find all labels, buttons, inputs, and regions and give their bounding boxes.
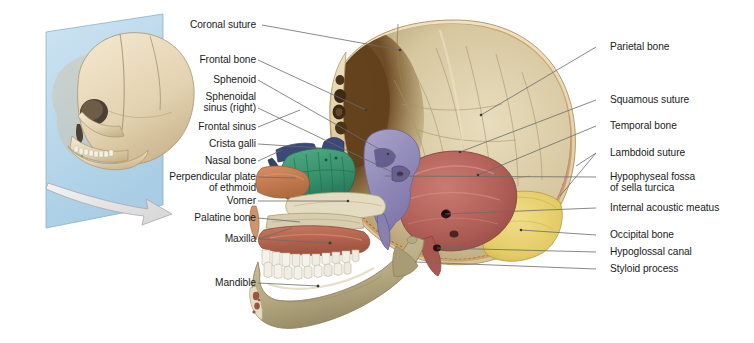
- label-text: Hypoglossal canal: [610, 246, 692, 257]
- anatomy-figure: Coronal sutureFrontal boneSphenoidSpheno…: [0, 0, 754, 343]
- label-text-line2: of sella turcica: [610, 182, 695, 193]
- label-text: Sphenoidal: [206, 91, 256, 102]
- label-text: Styloid process: [610, 263, 678, 274]
- label-text: Coronal suture: [190, 19, 256, 30]
- label-text: Internal acoustic meatus: [610, 202, 719, 213]
- label-mandible: Mandible: [204, 277, 256, 288]
- label-text: Mandible: [215, 277, 256, 288]
- sagittal-skull: [250, 16, 585, 328]
- label-sphenoid: Sphenoid: [205, 74, 256, 85]
- label-parietal-bone: Parietal bone: [610, 41, 669, 52]
- label-sphenoidal-sinus-right: Sphenoidalsinus (right): [183, 91, 256, 114]
- label-text: Frontal sinus: [198, 121, 256, 132]
- label-vomer: Vomer: [217, 195, 256, 206]
- label-text: Perpendicular plate: [169, 171, 256, 182]
- orientation-inset: [46, 14, 194, 228]
- label-text: Frontal bone: [199, 54, 256, 65]
- label-coronal-suture: Coronal suture: [175, 19, 256, 30]
- label-lambdoid-suture: Lambdoid suture: [610, 147, 685, 158]
- label-temporal-bone: Temporal bone: [610, 120, 677, 131]
- label-maxilla: Maxilla: [215, 233, 256, 244]
- label-nasal-bone: Nasal bone: [191, 155, 256, 166]
- label-hypoglossal-canal: Hypoglossal canal: [610, 246, 692, 257]
- label-text: Temporal bone: [610, 120, 677, 131]
- label-palatine-bone: Palatine bone: [186, 212, 256, 223]
- label-frontal-sinus: Frontal sinus: [184, 121, 256, 132]
- mandibular-condyle: [407, 236, 417, 243]
- label-text: Crista galli: [209, 138, 256, 149]
- label-frontal-bone: Frontal bone: [186, 54, 256, 65]
- label-text: Parietal bone: [610, 41, 669, 52]
- label-text: Lambdoid suture: [610, 147, 685, 158]
- label-text: Nasal bone: [205, 155, 256, 166]
- label-perpendicular-plate-ethmoid: Perpendicular plateof ethmoid: [155, 171, 256, 194]
- label-text: Sphenoid: [213, 74, 256, 85]
- label-text: Hypophyseal fossa: [610, 171, 695, 182]
- frontal-sinus-cavity-3: [335, 122, 347, 135]
- label-text: Palatine bone: [194, 212, 256, 223]
- label-internal-acoustic-meatus: Internal acoustic meatus: [610, 202, 719, 213]
- label-text: Occipital bone: [610, 229, 674, 240]
- label-text: Vomer: [227, 195, 256, 206]
- label-crista-galli: Crista galli: [192, 138, 256, 149]
- label-hypophyseal-fossa: Hypophyseal fossaof sella turcica: [610, 171, 695, 194]
- label-text: Squamous suture: [610, 94, 689, 105]
- label-squamous-suture: Squamous suture: [610, 94, 689, 105]
- label-text-line2: of ethmoid: [155, 182, 256, 193]
- label-text-line2: sinus (right): [183, 102, 256, 113]
- label-styloid-process: Styloid process: [610, 263, 678, 274]
- label-text: Maxilla: [225, 233, 256, 244]
- label-occipital-bone: Occipital bone: [610, 229, 674, 240]
